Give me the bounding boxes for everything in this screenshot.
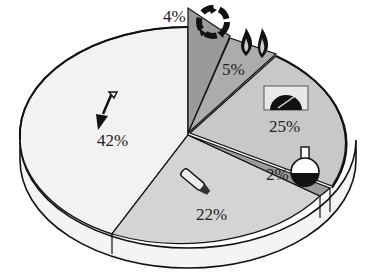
label-combustion: 5% <box>222 61 245 78</box>
label-recycling: 4% <box>163 8 186 25</box>
label-tools: 22% <box>196 206 227 223</box>
label-energy: 25% <box>269 118 300 135</box>
label-landfill: 42% <box>97 132 128 149</box>
label-chemical: 2% <box>266 166 289 183</box>
pie-chart <box>0 0 368 272</box>
gauge-icon <box>264 86 308 110</box>
